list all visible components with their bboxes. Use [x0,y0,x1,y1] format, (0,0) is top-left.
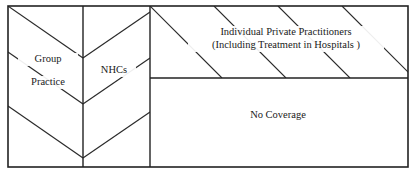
region-label-ipp-line2: (Including Treatment in Hospitals ) [190,39,382,52]
region-label-practice-text: Practice [18,76,78,89]
region-label-practice: Practice [16,76,80,89]
region-label-nhcs: NHCs [92,64,136,77]
region-label-group: Group [18,53,78,66]
region-label-no-coverage: No Coverage [228,109,328,122]
region-label-individual-private-practitioners: Individual Private Practitioners (Includ… [188,26,384,52]
region-label-group-text: Group [20,53,76,66]
diagram-canvas: Group Practice NHCs Individual Private P… [0,0,416,179]
region-label-nhcs-text: NHCs [94,64,134,77]
region-label-no-coverage-text: No Coverage [230,109,326,122]
region-label-ipp-line1: Individual Private Practitioners [190,26,382,39]
